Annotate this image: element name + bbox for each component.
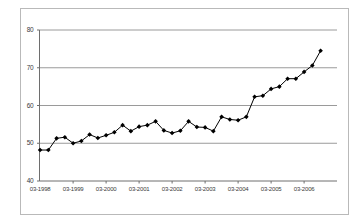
data-point [318,48,323,53]
ytick-label-70: 70 [20,64,34,71]
xtick-label-03-1999: 03-1999 [56,186,90,192]
xtick-label-03-2002: 03-2002 [155,186,189,192]
ytick-label-80: 80 [20,26,34,33]
gridlines-group [40,30,338,143]
xtick-label-03-2005: 03-2005 [254,186,288,192]
data-point [244,115,249,120]
data-point [219,115,224,120]
data-point [38,148,43,153]
data-point [137,124,142,129]
data-point [170,131,175,136]
data-point [104,133,109,138]
ytick-label-40: 40 [20,177,34,184]
data-point [211,129,216,134]
data-point [228,117,233,122]
data-point [203,125,208,130]
data-markers-group [38,48,323,152]
xtick-label-03-2003: 03-2003 [188,186,222,192]
xtick-label-03-2000: 03-2000 [89,186,123,192]
ytick-label-50: 50 [20,139,34,146]
data-line-group [40,51,321,150]
xtick-label-03-2001: 03-2001 [122,186,156,192]
data-line [40,51,321,150]
data-point [252,95,257,100]
data-point [236,118,241,123]
data-point [145,123,150,128]
xtick-label-03-2006: 03-2006 [287,186,321,192]
ytick-label-60: 60 [20,102,34,109]
data-point [96,136,101,141]
xtick-label-03-1998: 03-1998 [23,186,57,192]
xtick-label-03-2004: 03-2004 [221,186,255,192]
chart-container: 4050607080 03-199803-199903-200003-20010… [0,0,364,223]
